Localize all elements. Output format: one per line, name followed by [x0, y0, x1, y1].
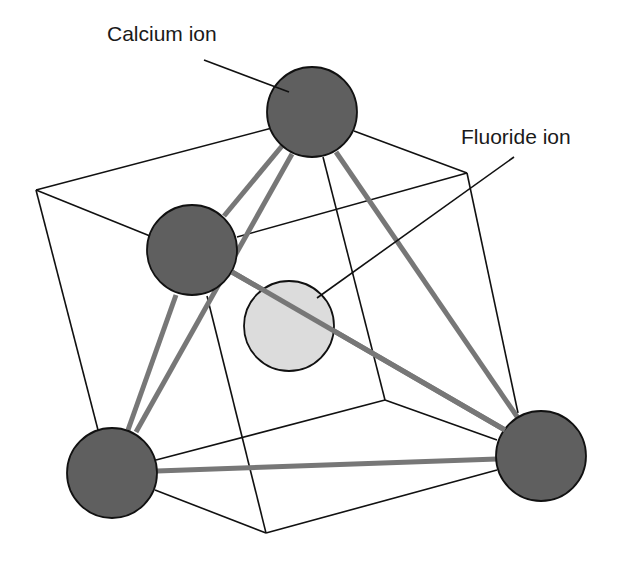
calcium-ion-bottom-left [67, 428, 157, 518]
bond-ca-bottom-left-ca-bottom-right [157, 459, 497, 471]
cube-edge [354, 131, 467, 173]
cube-edge [266, 470, 497, 533]
fluoride-ion-label: Fluoride ion [461, 125, 571, 149]
cube-edge [155, 490, 266, 533]
cube-edge [36, 190, 150, 236]
bond-ca-top-ca-left [224, 146, 282, 216]
cube-edge [36, 128, 272, 190]
cube-edge [323, 157, 385, 400]
fluorite-unit-diagram [0, 0, 629, 571]
calcium-ion-left [147, 205, 237, 295]
calcium-ion-label: Calcium ion [107, 22, 217, 46]
calcium-ion-bottom-right [496, 411, 586, 501]
calcium-ion-top [267, 67, 357, 157]
calcium-label-pointer [204, 60, 289, 92]
bond-ca-left-ca-bottom-left [128, 295, 176, 430]
cube-edge [36, 190, 98, 430]
cube-edge [385, 400, 497, 440]
cube-edge [156, 400, 385, 460]
fluoride-label-pointer [317, 157, 514, 298]
cube-edge [237, 173, 467, 237]
